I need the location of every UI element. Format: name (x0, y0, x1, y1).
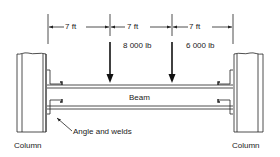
right-column (234, 53, 263, 132)
left-column-label: Column (14, 142, 42, 150)
beam-diagram (0, 0, 280, 157)
dimension-label-2: 7 ft (127, 23, 138, 31)
load-label-8000: 8 000 lb (123, 42, 151, 50)
left-angles (47, 70, 62, 114)
angle-leader (57, 118, 72, 131)
dimension-label-3: 7 ft (189, 23, 200, 31)
right-column-label: Column (232, 142, 260, 150)
left-column (17, 53, 46, 132)
angle-welds-label: Angle and welds (73, 128, 132, 136)
beam-label: Beam (129, 94, 150, 102)
load-label-6000: 6 000 lb (186, 42, 214, 50)
dimension-label-1: 7 ft (65, 23, 76, 31)
right-angles (218, 70, 233, 114)
